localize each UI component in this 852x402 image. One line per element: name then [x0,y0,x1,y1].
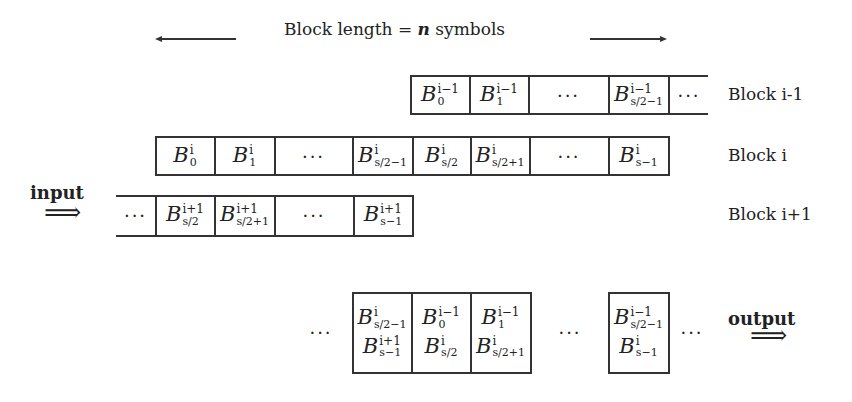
ellipsis-cell: ··· [275,196,353,235]
ellipsis-cell: ··· [296,292,346,373]
symbol-cell: Bis/2 [413,137,470,175]
symbol-cell: Bi+1s−1 [354,196,412,235]
ellipsis-cell: ··· [529,76,608,114]
symbol-cell: Bi+1s/2+1 [215,196,274,235]
symbol-cell: Bi+1s/2 [156,196,214,235]
left-arrow-line [160,38,236,40]
symbol-cell: Bi0 [156,137,214,175]
output-arrow-icon: ⟹ [750,322,787,348]
ellipsis-cell: ··· [116,196,155,235]
ellipsis-cell: ··· [530,137,608,175]
diagram-title: Block length = n symbols [284,19,505,39]
block-current-label: Block i [728,145,787,165]
input-arrow-icon: ⟹ [44,199,81,225]
title-prefix: Block length = [284,19,418,39]
ellipsis-cell: ··· [672,292,712,373]
row-border-bottom [116,235,414,237]
ellipsis-cell: ··· [540,292,600,373]
cell-divider [668,292,670,374]
ellipsis-cell: ··· [669,76,709,114]
output-cell: Bi−11 Bis/2+1 [471,293,530,372]
row-border-bottom [608,372,669,374]
symbol-cell: Bi−11 [470,76,528,114]
symbol-cell: Bi−10 [411,76,469,114]
right-arrow-line [590,38,662,40]
cell-divider [668,136,670,176]
output-cell: Bi−1s/2−1 Bis−1 [609,293,668,372]
right-arrowhead-icon [660,36,667,42]
cell-divider [412,195,414,236]
symbol-cell: Bi1 [215,137,274,175]
title-suffix: symbols [430,19,505,39]
symbol-cell: Bis/2−1 [353,137,412,175]
block-prev-label: Block i-1 [728,84,803,104]
symbol-cell: Bi−1s/2−1 [609,76,668,114]
title-variable: n [418,19,430,39]
block-next-label: Block i+1 [728,204,812,224]
output-cell: Bis/2−1 Bi+1s−1 [353,293,411,372]
output-cell: Bi−10 Bis/2 [412,293,470,372]
ellipsis-cell: ··· [275,137,352,175]
symbol-cell: Bis−1 [609,137,668,175]
cell-divider [530,292,532,374]
symbol-cell: Bis/2+1 [471,137,529,175]
row-border-bottom [352,372,531,374]
